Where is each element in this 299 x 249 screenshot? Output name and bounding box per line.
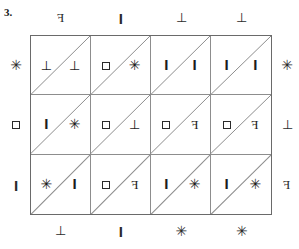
- row-label-right-3: F: [275, 173, 299, 197]
- tack-icon: ⊥: [282, 117, 293, 133]
- bar-icon: I: [225, 176, 229, 191]
- row-label-left-2: [4, 113, 28, 137]
- mirrored-f-icon: F: [252, 118, 259, 131]
- grid-cell[interactable]: II: [151, 36, 211, 95]
- column-label-bottom-1: ⊥: [30, 221, 90, 241]
- tack-icon: ⊥: [236, 10, 247, 26]
- problem-number: 3.: [4, 7, 12, 18]
- square-icon: [162, 121, 170, 129]
- cell-diagonal-line: [211, 36, 271, 94]
- star-icon: ✳: [40, 177, 52, 191]
- cell-symbol-lower: I: [253, 57, 257, 73]
- cell-symbol-lower: ✳: [250, 176, 262, 192]
- cell-symbol-upper: I: [164, 176, 168, 192]
- square-icon: [223, 121, 231, 129]
- column-label-bottom-3: ✳: [151, 221, 211, 241]
- column-label-top-4: ⊥: [212, 8, 272, 28]
- bar-icon: I: [225, 57, 229, 72]
- square-icon: [102, 181, 110, 189]
- mirrored-f-icon: F: [57, 10, 64, 26]
- star-icon: ✳: [10, 57, 22, 73]
- cell-diagonal-line: [211, 155, 271, 214]
- grid-cell[interactable]: F: [91, 155, 151, 214]
- row-label-left-1: ✳: [4, 53, 28, 77]
- cell-symbol-lower: I: [73, 176, 77, 192]
- column-label-top-1: F: [30, 8, 90, 28]
- cell-symbol-lower: F: [191, 116, 198, 132]
- cell-symbol-upper: [102, 176, 110, 192]
- grid-cell[interactable]: ⊥: [91, 95, 151, 154]
- bar-icon: I: [119, 223, 123, 240]
- cell-symbol-upper: I: [164, 57, 168, 73]
- cell-symbol-upper: ✳: [40, 176, 52, 192]
- cell-symbol-lower: ✳: [69, 116, 81, 132]
- puzzle-grid: ⊥⊥✳IIIII✳⊥FF✳IFI✳I✳: [30, 35, 272, 215]
- column-label-bottom-2: I: [91, 221, 151, 241]
- row-label-left-3: I: [4, 173, 28, 197]
- bar-icon: I: [119, 10, 123, 27]
- bar-icon: I: [164, 57, 168, 72]
- star-icon: ✳: [189, 177, 201, 191]
- cell-symbol-upper: I: [225, 57, 229, 73]
- grid-cell[interactable]: II: [211, 36, 271, 95]
- column-label-top-3: ⊥: [151, 8, 211, 28]
- grid-cell[interactable]: F: [151, 95, 211, 154]
- cell-diagonal-line: [91, 95, 150, 153]
- bar-icon: I: [164, 176, 168, 191]
- cell-symbol-upper: ⊥: [41, 57, 52, 73]
- cell-symbol-upper: [102, 57, 110, 73]
- cell-diagonal-line: [91, 155, 150, 214]
- grid-cell[interactable]: I✳: [31, 95, 91, 154]
- square-icon: [12, 121, 20, 129]
- cell-symbol-upper: [102, 116, 110, 132]
- cell-diagonal-line: [151, 95, 210, 153]
- grid-cell[interactable]: I✳: [211, 155, 271, 214]
- row-label-right-2: ⊥: [275, 113, 299, 137]
- column-label-top-2: I: [91, 8, 151, 28]
- star-icon: ✳: [69, 117, 81, 131]
- tack-icon: ⊥: [41, 59, 52, 72]
- cell-symbol-lower: ⊥: [129, 116, 140, 132]
- cell-diagonal-line: [91, 36, 150, 94]
- star-icon: ✳: [281, 57, 293, 73]
- row-label-right-1: ✳: [275, 53, 299, 77]
- cell-symbol-lower: I: [193, 57, 197, 73]
- cell-symbol-lower: ⊥: [69, 57, 80, 73]
- cell-diagonal-line: [151, 36, 210, 94]
- cell-symbol-lower: ✳: [189, 176, 201, 192]
- star-icon: ✳: [250, 177, 262, 191]
- cell-symbol-lower: F: [131, 176, 138, 192]
- puzzle-container: 3. F I ⊥ ⊥ ⊥ I ✳ ✳ ✳ I ✳ ⊥ F ⊥⊥✳IIIII✳⊥F…: [0, 0, 299, 249]
- bar-icon: I: [44, 116, 48, 131]
- bar-icon: I: [14, 177, 18, 194]
- cell-diagonal-line: [211, 95, 271, 153]
- star-icon: ✳: [175, 223, 187, 239]
- cell-symbol-upper: [162, 116, 170, 132]
- grid-cells: ⊥⊥✳IIIII✳⊥FF✳IFI✳I✳: [31, 36, 271, 214]
- cell-symbol-upper: I: [44, 116, 48, 132]
- star-icon: ✳: [236, 223, 248, 239]
- square-icon: [102, 121, 110, 129]
- cell-diagonal-line: [151, 155, 210, 214]
- grid-cell[interactable]: I✳: [151, 155, 211, 214]
- cell-symbol-upper: I: [225, 176, 229, 192]
- grid-cell[interactable]: ✳I: [31, 155, 91, 214]
- grid-cell[interactable]: ⊥⊥: [31, 36, 91, 95]
- mirrored-f-icon: F: [131, 178, 138, 191]
- cell-diagonal-line: [31, 95, 90, 153]
- grid-cell[interactable]: ✳: [91, 36, 151, 95]
- cell-symbol-upper: [223, 116, 231, 132]
- square-icon: [102, 62, 110, 70]
- bar-icon: I: [73, 176, 77, 191]
- cell-symbol-lower: ✳: [129, 57, 141, 73]
- bar-icon: I: [253, 57, 257, 72]
- grid-cell[interactable]: F: [211, 95, 271, 154]
- star-icon: ✳: [129, 58, 141, 72]
- mirrored-f-icon: F: [191, 118, 198, 131]
- column-label-bottom-4: ✳: [212, 221, 272, 241]
- tack-icon: ⊥: [55, 223, 66, 239]
- tack-icon: ⊥: [129, 118, 140, 131]
- cell-symbol-lower: F: [252, 116, 259, 132]
- bar-icon: I: [193, 57, 197, 72]
- mirrored-f-icon: F: [283, 177, 290, 193]
